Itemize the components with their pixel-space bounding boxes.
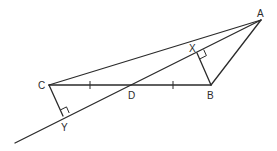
line-ad-extended	[15, 20, 261, 143]
right-angle-x-icon	[200, 50, 207, 59]
segment-ac	[49, 20, 261, 85]
label-a: A	[257, 8, 264, 19]
label-y: Y	[61, 122, 68, 133]
segment-bx	[197, 53, 211, 85]
geometry-diagram: A B C D X Y	[0, 0, 277, 151]
segment-cy	[49, 85, 63, 116]
label-x: X	[189, 43, 196, 54]
label-c: C	[38, 80, 45, 91]
segment-ab	[211, 20, 261, 85]
label-d: D	[128, 90, 135, 101]
label-b: B	[207, 90, 214, 101]
